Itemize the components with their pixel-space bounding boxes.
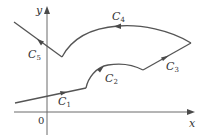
curve-c3: C3 (143, 43, 191, 74)
x-axis-label: x (189, 117, 196, 130)
c1-label: C1 (58, 95, 71, 109)
x-axis-arrow-icon (187, 109, 195, 115)
curve-c1: C1 (15, 88, 86, 109)
c4-direction-arrow-icon (114, 24, 121, 30)
c4-label: C4 (112, 10, 125, 24)
origin-label: 0 (38, 115, 44, 126)
curve-c4: C4 (62, 10, 191, 57)
y-axis-arrow-icon (44, 6, 50, 14)
curve-c2: C2 (86, 64, 143, 88)
y-axis-label: y (35, 4, 43, 17)
c3-label: C3 (166, 60, 179, 74)
c5-direction-arrow-icon (37, 39, 44, 46)
c5-label: C5 (28, 48, 41, 62)
c2-label: C2 (105, 72, 118, 86)
curve-diagram: y x 0 C1 C2 C3 C4 C5 (0, 0, 206, 140)
curve-c5: C5 (14, 22, 62, 62)
